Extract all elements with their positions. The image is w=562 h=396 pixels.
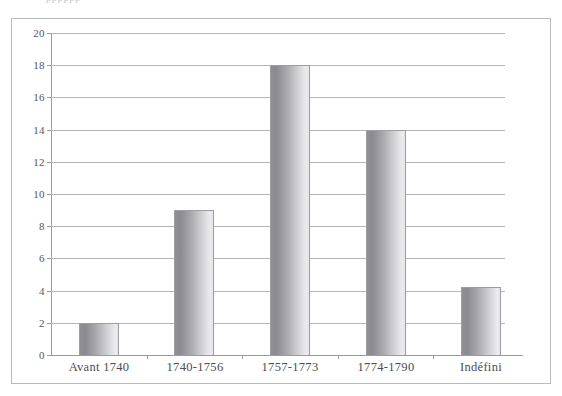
y-axis-tick-label: 14 bbox=[33, 125, 45, 136]
y-axis-tick-label: 10 bbox=[33, 189, 45, 200]
x-axis-tick bbox=[242, 355, 243, 359]
x-axis-tick-label: 1757-1773 bbox=[242, 360, 338, 374]
x-axis-tick-label: 1740-1756 bbox=[147, 360, 243, 374]
y-axis-tick-label: 12 bbox=[33, 157, 45, 168]
x-axis-tick-label: 1774-1790 bbox=[338, 360, 434, 374]
y-axis-tick bbox=[47, 130, 51, 131]
gridline bbox=[51, 33, 505, 34]
plot-area bbox=[51, 33, 529, 355]
bar bbox=[366, 130, 406, 355]
y-axis-tick bbox=[47, 33, 51, 34]
y-axis-tick-label: 6 bbox=[39, 253, 45, 264]
y-axis-tick bbox=[47, 355, 51, 356]
y-axis-tick-label: 2 bbox=[39, 318, 45, 329]
y-axis-tick bbox=[47, 65, 51, 66]
y-axis-tick-label: 20 bbox=[33, 28, 45, 39]
x-axis-baseline bbox=[51, 355, 523, 356]
y-axis-tick bbox=[47, 323, 51, 324]
bar bbox=[79, 323, 119, 355]
y-axis-tick-label: 18 bbox=[33, 60, 45, 71]
y-axis-tick bbox=[47, 97, 51, 98]
x-axis-tick-label: Indéfini bbox=[433, 360, 529, 374]
x-axis-tick bbox=[433, 355, 434, 359]
bar bbox=[270, 65, 310, 355]
clipped-caption-text: pppppp bbox=[0, 0, 562, 3]
bar bbox=[461, 287, 501, 355]
y-axis-tick bbox=[47, 162, 51, 163]
x-axis-tick bbox=[338, 355, 339, 359]
chart-figure: pppppp 02468101214161820 Avant 17401740-… bbox=[0, 0, 562, 396]
y-axis-tick-label: 0 bbox=[39, 350, 45, 361]
y-axis-tick bbox=[47, 226, 51, 227]
y-axis-tick-label: 16 bbox=[33, 92, 45, 103]
y-axis-tick-label: 8 bbox=[39, 221, 45, 232]
y-axis-tick bbox=[47, 194, 51, 195]
y-axis-tick-label: 4 bbox=[39, 286, 45, 297]
x-axis-tick bbox=[147, 355, 148, 359]
x-axis-labels: Avant 17401740-17561757-17731774-1790Ind… bbox=[51, 360, 529, 380]
bar bbox=[174, 210, 214, 355]
y-axis-labels: 02468101214161820 bbox=[11, 33, 45, 355]
y-axis-tick bbox=[47, 258, 51, 259]
x-axis-tick-label: Avant 1740 bbox=[51, 360, 147, 374]
y-axis-tick bbox=[47, 291, 51, 292]
